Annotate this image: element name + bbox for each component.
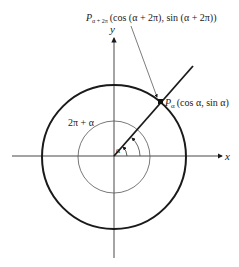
- unit-circle-diagram: y x α 2π + α Pα(cos α, sin α) Pα + 2π(co…: [0, 0, 239, 267]
- svg-text:Pα(cos α, sin α): Pα(cos α, sin α): [164, 97, 229, 110]
- point-top-coords: (cos (α + 2π), sin (α + 2π)): [110, 12, 217, 24]
- point-main-subscript: α: [171, 102, 175, 110]
- outer-angle-label: 2π + α: [68, 117, 95, 128]
- point-main-coords: (cos α, sin α): [177, 97, 229, 109]
- angle-alpha-label: α: [116, 146, 121, 155]
- leader-line: [131, 26, 157, 97]
- x-axis-label: x: [224, 150, 230, 162]
- point-main-name: P: [164, 97, 171, 108]
- point-top-name: P: [85, 12, 92, 23]
- point-p-alpha: [158, 99, 163, 104]
- point-main-label: Pα(cos α, sin α): [164, 97, 229, 110]
- angle-arc-2: [132, 138, 140, 156]
- y-axis-label: y: [109, 23, 115, 35]
- point-top-subscript: α + 2π: [92, 18, 108, 24]
- point-top-label: Pα + 2π(cos (α + 2π), sin (α + 2π)): [85, 12, 217, 24]
- angle-alpha-arc: [123, 147, 127, 156]
- svg-text:Pα + 2π(cos (α + 2π), sin (α +: Pα + 2π(cos (α + 2π), sin (α + 2π)): [85, 12, 217, 24]
- terminal-ray: [114, 66, 193, 156]
